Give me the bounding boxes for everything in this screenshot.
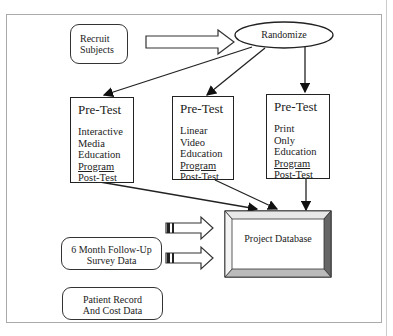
pretest-box-video: Pre-Test Linear Video Education Program …	[172, 96, 234, 180]
pretest-line: Only	[274, 135, 329, 147]
block-arrow-recruit	[146, 30, 234, 54]
recruit-subjects-box: Recruit Subjects	[70, 24, 128, 64]
pretest-line: Program	[78, 161, 133, 173]
pretest-title: Pre-Test	[78, 103, 133, 117]
pretest-line: Video	[180, 137, 233, 149]
pretest-line: Linear	[180, 125, 233, 137]
patient-record-box: Patient Record And Cost Data	[62, 287, 163, 320]
randomize-label: Randomize	[236, 29, 332, 40]
database-bevel	[225, 211, 331, 277]
followup-survey-box: 6 Month Follow-Up Survey Data	[61, 237, 162, 270]
patient-line-1: Patient Record	[63, 294, 162, 305]
pretest-title: Pre-Test	[274, 100, 329, 114]
block-arrow-followup-1	[166, 217, 213, 239]
pretest-line: Post-Test	[274, 169, 329, 181]
pretest-line: Education	[78, 149, 133, 161]
recruit-line-2: Subjects	[80, 44, 127, 55]
project-database-label: Project Database	[232, 233, 324, 244]
pretest-title: Pre-Test	[180, 102, 233, 116]
pretest-line: Program	[180, 160, 233, 172]
pretest-line: Media	[78, 138, 133, 150]
pretest-line: Education	[180, 148, 233, 160]
pretest-line: Interactive	[78, 126, 133, 138]
pretest-line: Program	[274, 158, 329, 170]
pretest-line: Education	[274, 146, 329, 158]
pretest-line: Post-Test	[78, 172, 133, 184]
patient-line-2: And Cost Data	[63, 305, 162, 316]
followup-line-2: Survey Data	[62, 255, 161, 266]
pretest-box-interactive: Pre-Test Interactive Media Education Pro…	[70, 97, 134, 183]
recruit-line-1: Recruit	[80, 33, 127, 44]
block-arrow-followup-2	[166, 247, 213, 269]
followup-line-1: 6 Month Follow-Up	[62, 244, 161, 255]
pretest-line: Post-Test	[180, 171, 233, 183]
pretest-box-print: Pre-Test Print Only Education Program Po…	[266, 94, 330, 179]
pretest-line: Print	[274, 123, 329, 135]
